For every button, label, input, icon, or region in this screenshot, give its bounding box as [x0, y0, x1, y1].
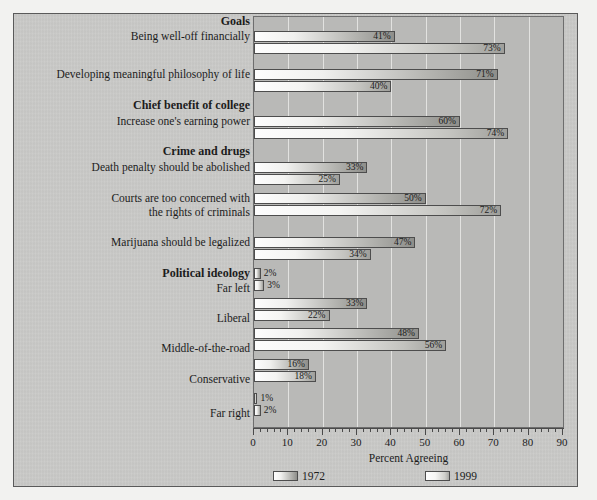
tick-52	[432, 428, 433, 432]
bar-value-label: 41%	[373, 31, 390, 42]
bar-value-label: 33%	[346, 298, 363, 309]
tick-62	[466, 428, 467, 432]
bar-value-label: 34%	[349, 249, 366, 260]
tick-36	[377, 428, 378, 432]
bar-value-label: 73%	[483, 43, 500, 54]
tick-label-50: 50	[419, 436, 430, 448]
tick-16	[308, 428, 309, 432]
tick-label-40: 40	[385, 436, 396, 448]
tick-64	[473, 428, 474, 432]
bar-value-label: 18%	[294, 371, 311, 382]
figure-root: Goals Being well-off financially Develop…	[0, 0, 597, 500]
group-heading-ideology: Political ideology	[162, 267, 250, 280]
group-heading-goals: Goals	[221, 15, 250, 28]
bar-1999-2	[254, 128, 508, 139]
tick-70	[493, 428, 494, 435]
legend-label-1972: 1972	[302, 470, 325, 482]
bar-1972-8	[254, 328, 419, 339]
bar-value-label: 50%	[404, 193, 421, 204]
tick-12	[294, 428, 295, 432]
tick-label-80: 80	[522, 436, 533, 448]
tick-label-0: 0	[250, 436, 256, 448]
category-label-far-right: Far right	[210, 407, 250, 420]
bar-1999-6	[254, 280, 264, 291]
tick-88	[555, 428, 556, 432]
bar-1999-4	[254, 205, 501, 216]
tick-20	[322, 428, 323, 435]
tick-26	[342, 428, 343, 432]
legend-label-1999: 1999	[454, 470, 477, 482]
tick-10	[287, 428, 288, 435]
bar-1972-5	[254, 237, 415, 248]
tick-74	[507, 428, 508, 432]
tick-48	[418, 428, 419, 432]
tick-84	[541, 428, 542, 432]
tick-86	[548, 428, 549, 432]
bar-value-label: 47%	[394, 237, 411, 248]
tick-68	[486, 428, 487, 432]
tick-22	[329, 428, 330, 432]
tick-2	[260, 428, 261, 432]
tick-44	[404, 428, 405, 432]
tick-label-70: 70	[488, 436, 499, 448]
bar-value-label: 22%	[308, 310, 325, 321]
legend-item-1999: 1999	[425, 470, 477, 482]
tick-58	[452, 428, 453, 432]
bar-1999-8	[254, 340, 446, 351]
legend-swatch-1999-icon	[425, 471, 450, 481]
category-label-courts-line1: Courts are too concerned with	[111, 192, 250, 205]
bar-value-label: 33%	[346, 162, 363, 173]
x-axis-label: Percent Agreeing	[253, 452, 564, 464]
x-axis-line	[253, 428, 564, 429]
tick-66	[480, 428, 481, 432]
bar-1972-4	[254, 193, 426, 204]
gridline-90	[563, 17, 564, 427]
category-label-column: Goals Being well-off financially Develop…	[15, 15, 252, 425]
bar-value-label: 16%	[288, 359, 305, 370]
bar-1999-0	[254, 43, 505, 54]
tick-46	[411, 428, 412, 432]
tick-56	[445, 428, 446, 432]
bar-1972-6	[254, 268, 261, 279]
bar-value-label: 48%	[397, 328, 414, 339]
gridline-80	[529, 17, 530, 427]
bar-value-label: 60%	[439, 116, 456, 127]
tick-72	[500, 428, 501, 432]
bar-value-label: 3%	[267, 280, 280, 291]
bar-value-label: 71%	[476, 69, 493, 80]
category-label-death-penalty: Death penalty should be abolished	[92, 161, 250, 174]
tick-90	[562, 428, 563, 435]
tick-0	[253, 428, 254, 435]
category-label-courts-line2: the rights of criminals	[149, 206, 250, 219]
tick-78	[521, 428, 522, 432]
tick-8	[280, 428, 281, 432]
tick-32	[363, 428, 364, 432]
bar-value-label: 2%	[264, 268, 277, 279]
tick-34	[370, 428, 371, 432]
tick-82	[535, 428, 536, 432]
tick-14	[301, 428, 302, 432]
tick-54	[438, 428, 439, 432]
category-label-philosophy: Developing meaningful philosophy of life	[56, 68, 250, 81]
tick-4	[267, 428, 268, 432]
bar-value-label: 72%	[480, 205, 497, 216]
tick-30	[356, 428, 357, 435]
category-label-middle: Middle-of-the-road	[161, 342, 250, 355]
tick-28	[349, 428, 350, 432]
tick-24	[335, 428, 336, 432]
tick-42	[397, 428, 398, 432]
tick-76	[514, 428, 515, 432]
tick-40	[390, 428, 391, 435]
tick-80	[528, 428, 529, 435]
legend-item-1972: 1972	[273, 470, 325, 482]
bar-value-label: 56%	[425, 340, 442, 351]
x-axis: 0102030405060708090	[253, 428, 564, 440]
group-heading-crime: Crime and drugs	[163, 145, 250, 158]
legend: 1972 1999	[253, 470, 564, 486]
bar-value-label: 1%	[260, 393, 273, 404]
bar-value-label: 74%	[487, 128, 504, 139]
tick-6	[274, 428, 275, 432]
tick-18	[315, 428, 316, 432]
bar-value-label: 25%	[318, 174, 335, 185]
legend-swatch-1972-icon	[273, 471, 298, 481]
